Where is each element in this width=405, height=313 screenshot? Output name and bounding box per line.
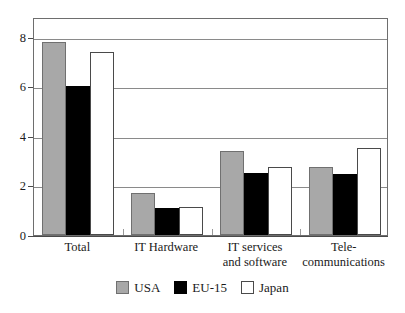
legend-label-jp: Japan: [259, 281, 289, 294]
y-tick-mark-6: [28, 87, 33, 88]
y-tick-label-2: 2: [2, 180, 26, 193]
y-tick-label-4: 4: [2, 131, 26, 144]
category-label-3: Tele- communications: [285, 240, 402, 270]
bar-jp-group-2: [268, 167, 292, 235]
x-axis-labels: TotalIT HardwareIT services and software…: [33, 240, 388, 278]
group-separator-1: [123, 229, 124, 235]
legend-item-japan[interactable]: Japan: [241, 281, 289, 294]
bar-usa-group-1: [131, 193, 155, 235]
legend-swatch-eu: [174, 281, 187, 294]
chart-legend: USAEU-15Japan: [0, 281, 405, 294]
bar-jp-group-1: [179, 207, 203, 235]
y-axis-labels: 02468: [0, 0, 26, 313]
bar-jp-group-0: [90, 52, 114, 235]
bar-eu-group-1: [155, 208, 179, 235]
legend-swatch-usa: [116, 281, 129, 294]
bar-chart: 02468 TotalIT HardwareIT services and so…: [0, 0, 405, 313]
y-tick-mark-4: [28, 137, 33, 138]
y-tick-mark-2: [28, 186, 33, 187]
group-separator-3: [300, 229, 301, 235]
bar-jp-group-3: [357, 148, 381, 235]
x-axis-line: [28, 236, 388, 237]
bar-eu-group-3: [333, 174, 357, 235]
bar-usa-group-0: [42, 42, 66, 235]
gridline-8: [34, 39, 387, 40]
y-tick-label-6: 6: [2, 81, 26, 94]
legend-label-eu: EU-15: [192, 281, 227, 294]
legend-label-usa: USA: [134, 281, 160, 294]
bar-eu-group-0: [66, 86, 90, 235]
bar-usa-group-2: [220, 151, 244, 235]
y-axis-line: [33, 18, 34, 237]
bar-usa-group-3: [309, 167, 333, 235]
legend-item-usa[interactable]: USA: [116, 281, 160, 294]
legend-item-eu-15[interactable]: EU-15: [174, 281, 227, 294]
group-separator-2: [212, 229, 213, 235]
y-tick-label-8: 8: [2, 32, 26, 45]
plot-area: [33, 18, 388, 236]
bar-eu-group-2: [244, 173, 268, 235]
legend-swatch-jp: [241, 281, 254, 294]
y-tick-mark-8: [28, 38, 33, 39]
